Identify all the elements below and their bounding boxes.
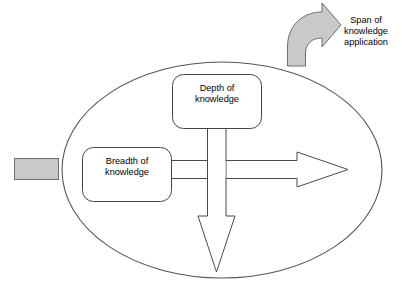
diagram-canvas: Depth of knowledge Breadth of knowledge … [0, 0, 404, 293]
depth-of-knowledge-label: Depth of knowledge [174, 83, 260, 105]
arrow-crossing-mask [209, 161, 226, 178]
span-of-knowledge-application-label: Span of knowledge application [330, 15, 402, 49]
input-tab [15, 159, 59, 180]
breadth-of-knowledge-label: Breadth of knowledge [84, 156, 170, 178]
